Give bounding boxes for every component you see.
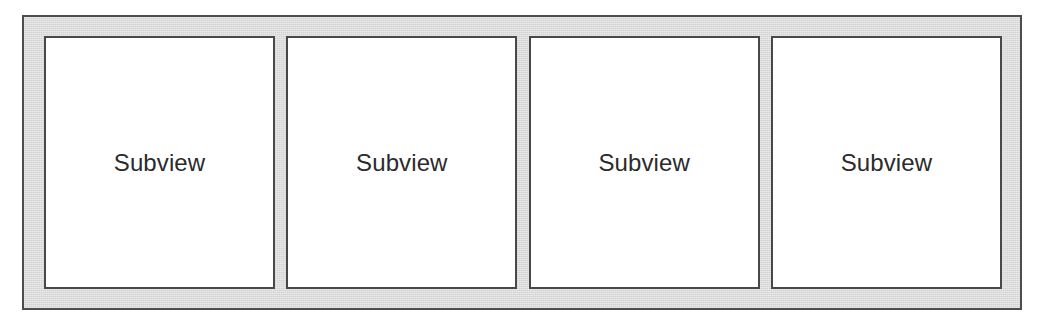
subview-row: Subview Subview Subview Subview (44, 36, 1002, 289)
subview-box-2[interactable]: Subview (286, 36, 517, 289)
diagram-canvas: Subview Subview Subview Subview (0, 0, 1042, 324)
subview-label-4: Subview (841, 151, 932, 175)
parent-view-container: Subview Subview Subview Subview (22, 15, 1022, 310)
subview-label-2: Subview (356, 151, 447, 175)
subview-box-4[interactable]: Subview (771, 36, 1002, 289)
subview-box-3[interactable]: Subview (529, 36, 760, 289)
subview-box-1[interactable]: Subview (44, 36, 275, 289)
subview-label-1: Subview (114, 151, 205, 175)
subview-label-3: Subview (598, 151, 689, 175)
